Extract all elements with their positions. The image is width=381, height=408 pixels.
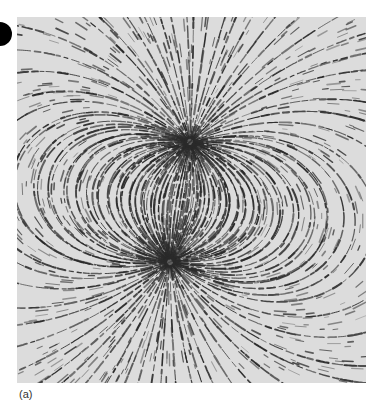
magnetic-field-lines: [17, 17, 366, 383]
figure-caption: (a): [19, 388, 32, 400]
iron-filings-photo: [17, 17, 366, 383]
page-marker-dot: [0, 22, 12, 46]
